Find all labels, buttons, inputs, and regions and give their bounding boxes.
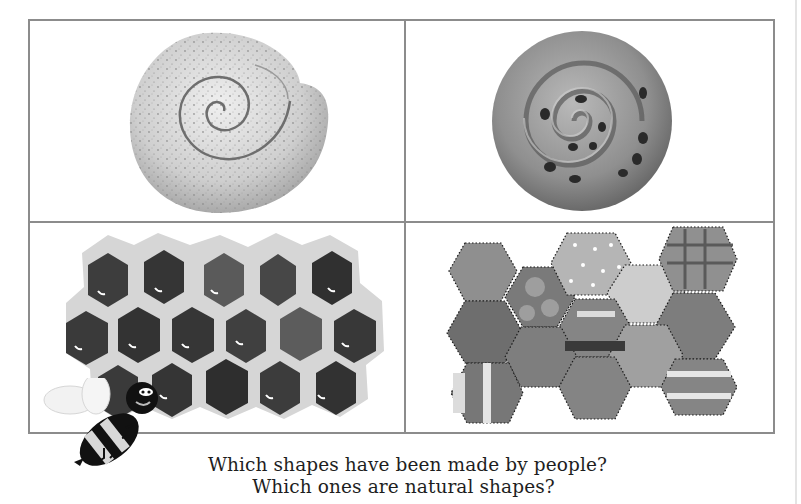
ammonite-shell-image [30,21,403,220]
patchwork-quilt-image [405,223,773,432]
patchwork-panel [405,223,773,432]
question-line-2: Which ones are natural shapes? [3,476,801,497]
currant-bun-image [405,21,773,220]
page-edge [795,0,797,504]
shell-panel [30,21,403,220]
question-line-1: Which shapes have been made by people? [7,454,801,475]
bun-panel [405,21,773,220]
